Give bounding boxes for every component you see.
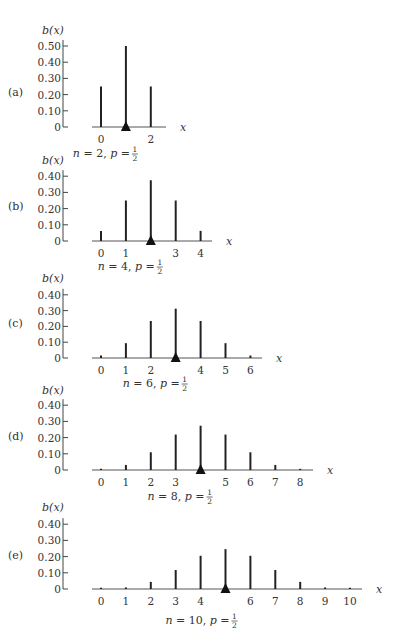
panel-label: (b)	[8, 200, 24, 213]
x-axis-label: x	[376, 583, 383, 596]
x-tick-label: 4	[197, 247, 204, 259]
panel-caption: n = 6, p = 12	[123, 375, 188, 393]
y-tick-label: 0.30	[38, 186, 61, 198]
y-tick-label: 0.40	[38, 56, 61, 68]
mean-marker-triangle-icon	[171, 352, 181, 362]
panel-label: (a)	[8, 86, 23, 99]
x-tick-label: 1	[123, 595, 130, 607]
panel-label: (e)	[8, 549, 23, 562]
y-tick-label: 0	[54, 121, 61, 133]
y-tick-label: 0.10	[38, 219, 61, 231]
fraction-numerator: 1	[133, 145, 138, 154]
x-axis-label: x	[180, 121, 187, 134]
y-tick-label: 0.20	[38, 203, 61, 215]
chart-panel-a: b(x)00.100.200.300.400.50(a)x02n = 2, p …	[8, 24, 187, 163]
x-tick-label: 3	[172, 476, 179, 488]
x-tick-label: 8	[297, 595, 304, 607]
x-tick-label: 4	[197, 595, 204, 607]
chart-panel-b: b(x)00.100.200.300.40(b)x0134n = 4, p = …	[8, 154, 233, 276]
fraction-numerator: 1	[207, 488, 212, 497]
fraction-denominator: 2	[207, 497, 212, 506]
x-tick-label: 0	[98, 364, 105, 376]
fraction-denominator: 2	[182, 384, 187, 393]
y-tick-label: 0.10	[38, 448, 61, 460]
x-tick-label: 6	[247, 476, 254, 488]
x-tick-label: 2	[147, 364, 154, 376]
panel-caption: n = 4, p = 12	[98, 258, 163, 276]
panel-label: (c)	[8, 317, 23, 330]
y-axis-label: b(x)	[42, 501, 64, 514]
x-axis-label: x	[327, 464, 334, 477]
y-tick-label: 0.30	[38, 415, 61, 427]
y-tick-label: 0.20	[38, 89, 61, 101]
panel-caption: n = 10, p = 12	[165, 612, 237, 630]
y-axis-label: b(x)	[42, 272, 64, 285]
x-axis-label: x	[226, 235, 233, 248]
mean-marker-triangle-icon	[121, 121, 131, 131]
y-tick-label: 0.40	[38, 518, 61, 530]
panel-label: (d)	[8, 430, 24, 443]
x-tick-label: 2	[147, 476, 154, 488]
chart-panel-e: b(x)00.100.200.300.40(e)x01234678910n = …	[8, 501, 383, 630]
y-tick-label: 0.10	[38, 567, 61, 579]
y-tick-label: 0.10	[38, 105, 61, 117]
y-tick-label: 0.40	[38, 289, 61, 301]
y-tick-label: 0.20	[38, 432, 61, 444]
x-tick-label: 10	[343, 595, 356, 607]
y-tick-label: 0.20	[38, 551, 61, 563]
x-tick-label: 4	[197, 364, 204, 376]
mean-marker-triangle-icon	[146, 235, 156, 245]
caption-text: n = 4, p =	[98, 260, 155, 273]
y-tick-label: 0.30	[38, 534, 61, 546]
caption-text: n = 2, p =	[73, 147, 130, 160]
y-tick-label: 0	[54, 235, 61, 247]
x-tick-label: 0	[98, 133, 105, 145]
x-tick-label: 5	[222, 364, 229, 376]
caption-text: n = 10, p =	[165, 614, 229, 627]
x-tick-label: 8	[297, 476, 304, 488]
y-tick-label: 0.50	[38, 40, 61, 52]
chart-panel-c: b(x)00.100.200.300.40(c)x012456n = 6, p …	[8, 272, 283, 393]
fraction-numerator: 1	[232, 612, 237, 621]
x-tick-label: 0	[98, 595, 105, 607]
y-tick-label: 0.20	[38, 320, 61, 332]
panel-caption: n = 8, p = 12	[148, 488, 213, 506]
y-tick-label: 0.40	[38, 170, 61, 182]
y-tick-label: 0	[54, 464, 61, 476]
fraction-denominator: 2	[232, 621, 237, 630]
y-tick-label: 0.10	[38, 336, 61, 348]
x-tick-label: 6	[247, 595, 254, 607]
x-tick-label: 1	[123, 364, 130, 376]
x-tick-label: 3	[172, 595, 179, 607]
fraction-numerator: 1	[182, 375, 187, 384]
y-tick-label: 0.40	[38, 399, 61, 411]
mean-marker-triangle-icon	[221, 583, 231, 593]
x-tick-label: 0	[98, 476, 105, 488]
x-tick-label: 7	[272, 595, 279, 607]
fraction-denominator: 2	[133, 154, 138, 163]
y-axis-label: b(x)	[42, 154, 64, 167]
x-tick-label: 3	[172, 247, 179, 259]
x-tick-label: 1	[123, 247, 130, 259]
x-tick-label: 5	[222, 476, 229, 488]
x-tick-label: 7	[272, 476, 279, 488]
mean-marker-triangle-icon	[196, 464, 206, 474]
x-tick-label: 9	[322, 595, 329, 607]
caption-text: n = 6, p =	[123, 377, 180, 390]
x-axis-label: x	[276, 352, 283, 365]
y-tick-label: 0.30	[38, 305, 61, 317]
panel-caption: n = 2, p = 12	[73, 145, 138, 163]
binomial-distribution-figure: b(x)00.100.200.300.400.50(a)x02n = 2, p …	[0, 0, 406, 641]
y-tick-label: 0	[54, 352, 61, 364]
fraction-denominator: 2	[157, 267, 162, 276]
x-tick-label: 6	[247, 364, 254, 376]
chart-panel-d: b(x)00.100.200.300.40(d)x01235678n = 8, …	[8, 384, 334, 506]
y-axis-label: b(x)	[42, 384, 64, 397]
x-tick-label: 1	[123, 476, 130, 488]
caption-text: n = 8, p =	[148, 490, 205, 503]
x-tick-label: 2	[147, 133, 154, 145]
x-tick-label: 0	[98, 247, 105, 259]
y-axis-label: b(x)	[42, 24, 64, 37]
fraction-numerator: 1	[157, 258, 162, 267]
y-tick-label: 0.30	[38, 72, 61, 84]
